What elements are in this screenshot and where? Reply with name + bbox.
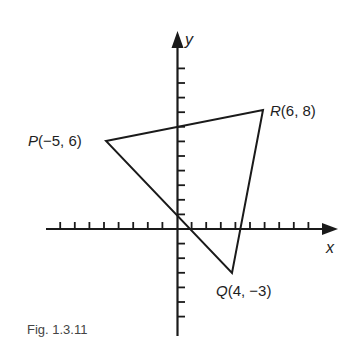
y-axis-arrow-icon xyxy=(172,31,184,48)
point-label-p: P(−5, 6) xyxy=(28,133,82,148)
point-label-r: R(6, 8) xyxy=(270,103,316,118)
point-letter-p: P xyxy=(28,132,38,149)
point-letter-q: Q xyxy=(216,282,228,299)
figure-caption: Fig. 1.3.11 xyxy=(27,322,87,337)
point-letter-r: R xyxy=(270,102,281,119)
x-axis xyxy=(46,222,338,235)
triangle-pqr xyxy=(106,110,263,273)
point-coords-q: (4, −3) xyxy=(228,282,272,299)
coordinate-diagram xyxy=(0,0,345,359)
point-coords-p: (−5, 6) xyxy=(38,132,82,149)
y-axis xyxy=(172,31,186,336)
point-label-q: Q(4, −3) xyxy=(216,283,271,298)
x-axis-label: x xyxy=(326,240,334,256)
x-axis-arrow-icon xyxy=(322,223,338,235)
y-axis-label: y xyxy=(185,32,193,48)
point-coords-r: (6, 8) xyxy=(281,102,316,119)
